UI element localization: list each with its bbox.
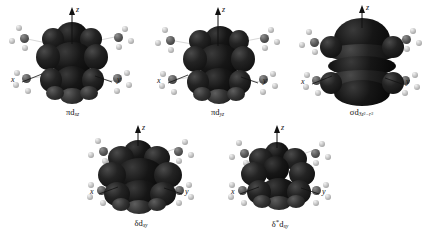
axis-label-x: x xyxy=(11,76,15,84)
hydrogen-atom xyxy=(88,152,94,158)
carbon-atom xyxy=(260,34,269,43)
hydrogen-atom xyxy=(171,89,177,95)
hydrogen-atom xyxy=(412,72,418,78)
hydrogen-atom xyxy=(312,49,318,55)
axis-label-y: y xyxy=(117,76,121,84)
hydrogen-atom xyxy=(236,140,242,146)
axis-label-y: y xyxy=(406,78,410,86)
panel-caption-pi-dyz: πdyz xyxy=(145,107,290,117)
orbital-lobe xyxy=(46,86,64,100)
carbon-atom xyxy=(240,149,249,158)
hydrogen-atom xyxy=(128,38,134,44)
orbital-lobe xyxy=(36,44,60,70)
hydrogen-atom xyxy=(229,154,235,160)
hydrogen-atom xyxy=(313,160,319,166)
carbon-atom xyxy=(20,34,29,43)
hydrogen-atom xyxy=(268,27,274,33)
orbital-lobe xyxy=(287,195,305,208)
carbon-atom xyxy=(311,149,320,158)
hydrogen-atom xyxy=(162,27,168,33)
axis-label-x: x xyxy=(301,78,305,86)
orbital-lobe xyxy=(382,36,404,58)
orbital-lobe xyxy=(112,198,130,211)
hydrogen-atom xyxy=(262,45,268,51)
hydrogen-atom xyxy=(404,46,410,52)
caption-subscript: xz xyxy=(75,111,79,117)
caption-subscript: xy xyxy=(143,222,148,228)
hydrogen-atom xyxy=(402,90,408,96)
hydrogen-atom xyxy=(325,154,331,160)
orbital-lobe xyxy=(193,87,211,101)
hydrogen-atom xyxy=(416,40,422,46)
axis-label-x: x xyxy=(157,77,161,85)
hydrogen-atom xyxy=(100,200,106,206)
panel-caption-delta-star-dxy: δ*dxy xyxy=(205,218,355,229)
orbital-lobe xyxy=(320,36,342,58)
panel-delta-star-dxy: z x y δ*dxy xyxy=(205,124,355,235)
orbital-lobe xyxy=(320,72,342,94)
axis-label-y: y xyxy=(263,77,267,85)
panel-delta-dxy: z x y δdxy xyxy=(66,124,216,235)
hydrogen-atom xyxy=(188,152,194,158)
hydrogen-atom xyxy=(274,39,280,45)
hydrogen-atom xyxy=(25,88,31,94)
hydrogen-atom xyxy=(126,82,132,88)
orbital-lobe xyxy=(382,72,404,94)
caption-subscript: xy xyxy=(284,223,289,229)
panel-caption-sigma-d3z2r2: σd3z2−r2 xyxy=(290,107,433,117)
hydrogen-atom xyxy=(122,26,128,32)
carbon-atom xyxy=(166,36,175,45)
carbon-atom xyxy=(310,38,319,47)
caption-subscript: yz xyxy=(220,111,224,117)
hydrogen-atom xyxy=(9,38,15,44)
axis-label-x: x xyxy=(90,188,94,196)
hydrogen-atom xyxy=(155,40,161,46)
carbon-atom xyxy=(175,186,184,195)
panel-pi-dyz: z x y πdyz xyxy=(145,0,290,125)
hydrogen-atom xyxy=(241,200,247,206)
caption-subscript: 3z2−r2 xyxy=(359,111,374,117)
carbon-atom xyxy=(114,33,123,42)
orbital-lobe xyxy=(253,195,271,208)
orbital-lobe xyxy=(231,46,255,72)
hydrogen-atom xyxy=(410,28,416,34)
hydrogen-atom xyxy=(313,200,319,206)
axis-label-x: x xyxy=(231,188,235,196)
hydrogen-atom xyxy=(176,200,182,206)
hydrogen-atom xyxy=(176,158,182,164)
orbital-lobe xyxy=(148,198,166,211)
hydrogen-atom xyxy=(22,45,28,51)
carbon-atom xyxy=(99,147,108,156)
hydrogen-atom xyxy=(315,90,321,96)
hydrogen-atom xyxy=(114,88,120,94)
axis-label-z: z xyxy=(76,6,79,14)
hydrogen-atom xyxy=(95,138,101,144)
hydrogen-atom xyxy=(299,42,305,48)
carbon-atom xyxy=(22,74,31,83)
axis-label-y: y xyxy=(185,188,189,196)
hydrogen-atom xyxy=(270,71,276,77)
orbital-lobe xyxy=(183,46,207,72)
hydrogen-atom xyxy=(414,84,420,90)
orbital-lobe xyxy=(80,86,98,100)
carbon-atom xyxy=(312,186,321,195)
hydrogen-atom xyxy=(168,47,174,53)
panel-caption-pi-dxz: πdxz xyxy=(0,107,145,117)
panel-caption-delta-dxy: δdxy xyxy=(66,218,216,228)
axis-label-z: z xyxy=(142,124,145,132)
hydrogen-atom xyxy=(306,29,312,35)
axis-label-z: z xyxy=(281,124,284,132)
orbital-lobe xyxy=(84,44,108,70)
axis-label-z: z xyxy=(366,4,369,12)
carbon-atom xyxy=(238,186,247,195)
panel-sigma-d3z2r2: z x y σd3z2−r2 xyxy=(290,0,433,125)
panel-pi-dxz: z x y πdxz xyxy=(0,0,145,125)
hydrogen-atom xyxy=(319,141,325,147)
hydrogen-atom xyxy=(182,139,188,145)
hydrogen-atom xyxy=(272,83,278,89)
hydrogen-atom xyxy=(124,70,130,76)
molecular-orbital-figure: z x y πdxz xyxy=(0,0,433,235)
caption-subscript-exp2: 2 xyxy=(371,111,373,116)
hydrogen-atom xyxy=(116,44,122,50)
hydrogen-atom xyxy=(260,89,266,95)
